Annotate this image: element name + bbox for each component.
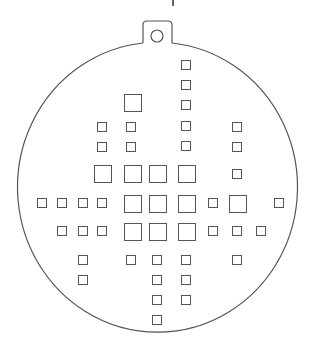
- small-square-cutout: [232, 255, 242, 265]
- large-square-cutout: [149, 165, 167, 183]
- small-square-cutout: [97, 142, 107, 152]
- small-square-cutout: [57, 226, 67, 236]
- large-square-cutout: [178, 165, 196, 183]
- small-square-cutout: [181, 60, 191, 70]
- small-square-cutout: [208, 198, 218, 208]
- small-square-cutout: [152, 315, 162, 325]
- small-square-cutout: [181, 141, 191, 151]
- small-square-cutout: [126, 122, 136, 132]
- hanger-tab: [143, 21, 172, 43]
- small-square-cutout: [208, 226, 218, 236]
- small-square-cutout: [232, 142, 242, 152]
- large-square-cutout: [124, 195, 142, 213]
- ornament-diagram: [0, 0, 310, 346]
- small-square-cutout: [97, 198, 107, 208]
- large-square-cutout: [124, 94, 142, 112]
- small-square-cutout: [232, 226, 242, 236]
- small-square-cutout: [152, 275, 162, 285]
- small-square-cutout: [97, 122, 107, 132]
- ornament-body-outline: [18, 43, 298, 332]
- small-square-cutout: [181, 255, 191, 265]
- small-square-cutout: [126, 142, 136, 152]
- large-square-cutout: [94, 165, 112, 183]
- small-square-cutout: [78, 255, 88, 265]
- large-square-cutout: [124, 223, 142, 241]
- small-square-cutout: [97, 226, 107, 236]
- small-square-cutout: [232, 122, 242, 132]
- small-square-cutout: [181, 80, 191, 90]
- small-square-cutout: [78, 226, 88, 236]
- small-square-cutout: [274, 198, 284, 208]
- large-square-cutout: [149, 223, 167, 241]
- small-square-cutout: [181, 100, 191, 110]
- small-square-cutout: [152, 255, 162, 265]
- large-square-cutout: [178, 195, 196, 213]
- small-square-cutout: [181, 295, 191, 305]
- large-square-cutout: [124, 165, 142, 183]
- large-square-cutout: [229, 195, 247, 213]
- small-square-cutout: [181, 275, 191, 285]
- small-square-cutout: [181, 121, 191, 131]
- hanger-hole: [151, 30, 163, 42]
- small-square-cutout: [57, 198, 67, 208]
- small-square-cutout: [152, 295, 162, 305]
- small-square-cutout: [126, 255, 136, 265]
- small-square-cutout: [37, 198, 47, 208]
- small-square-cutout: [78, 275, 88, 285]
- large-square-cutout: [149, 195, 167, 213]
- small-square-cutout: [78, 198, 88, 208]
- large-square-cutout: [178, 223, 196, 241]
- small-square-cutout: [232, 169, 242, 179]
- small-square-cutout: [256, 226, 266, 236]
